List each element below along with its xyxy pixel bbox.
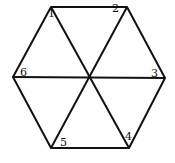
hexagon-figure <box>0 0 175 163</box>
vertex-label-4: 4 <box>125 131 132 142</box>
vertex-label-6: 6 <box>20 67 27 78</box>
vertex-label-2: 2 <box>112 3 119 14</box>
vertex-label-5: 5 <box>60 137 67 148</box>
vertex-label-3: 3 <box>151 68 158 79</box>
hexagon-diagram: 1 2 3 4 5 6 <box>0 0 175 163</box>
vertex-label-1: 1 <box>48 8 55 19</box>
diagonal-6-3 <box>13 77 165 78</box>
